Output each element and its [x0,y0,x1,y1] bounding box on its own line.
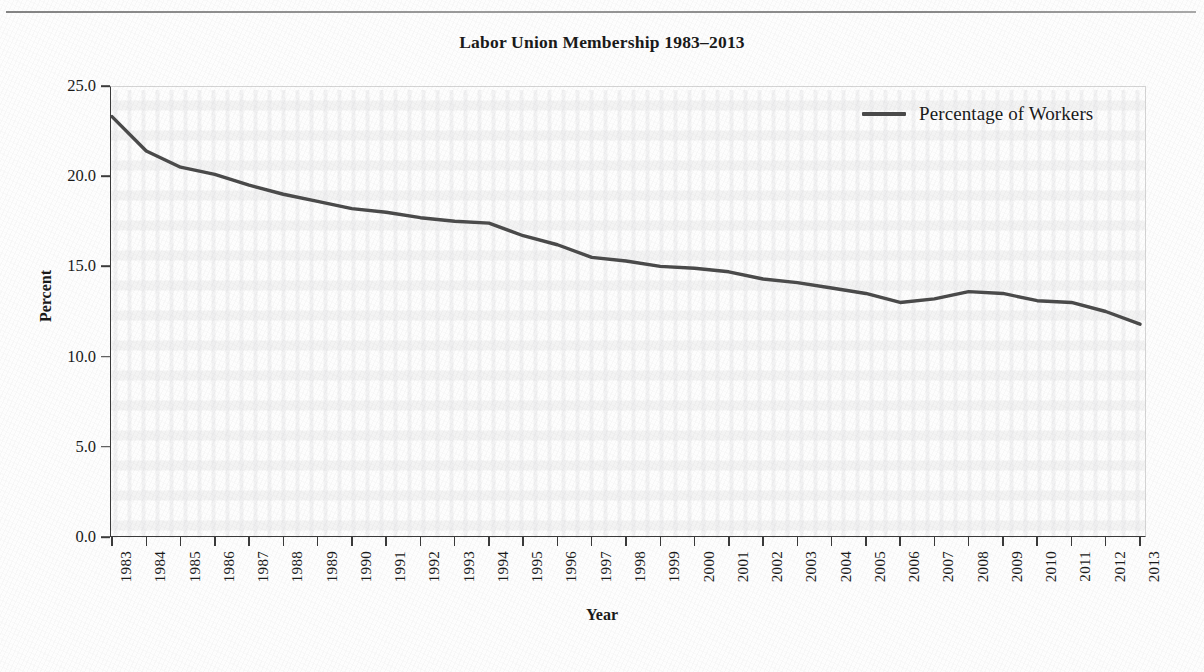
x-tick-label: 1985 [187,551,204,582]
x-tick-mark [180,537,182,546]
x-tick-mark [1071,537,1073,546]
x-tick-mark [1105,537,1107,546]
x-tick-mark [934,537,936,546]
x-tick-label: 2008 [975,551,992,582]
x-tick-label: 2003 [803,551,820,582]
x-tick-label: 1986 [221,551,238,582]
y-tick-mark [101,446,110,448]
x-tick-label: 2012 [1112,551,1129,582]
y-tick-label: 5.0 [6,437,96,457]
x-tick-mark [454,537,456,546]
x-tick-label: 2000 [701,551,718,582]
x-tick-mark [248,537,250,546]
legend-line-swatch [862,112,906,116]
x-tick-mark [522,537,524,546]
y-tick-label: 0.0 [6,527,96,547]
x-tick-mark [214,537,216,546]
x-tick-label: 1991 [392,551,409,582]
x-tick-mark [660,537,662,546]
x-tick-label: 1988 [289,551,306,582]
x-tick-mark [762,537,764,546]
x-tick-mark [694,537,696,546]
x-tick-mark [146,537,148,546]
x-tick-mark [899,537,901,546]
x-tick-label: 1998 [632,551,649,582]
x-tick-label: 2002 [769,551,786,582]
x-tick-mark [317,537,319,546]
x-tick-mark [385,537,387,546]
x-tick-label: 1999 [666,551,683,582]
x-tick-label: 2009 [1009,551,1026,582]
x-tick-mark [797,537,799,546]
y-tick-mark [101,536,110,538]
x-tick-label: 2011 [1077,551,1094,582]
x-tick-label: 2010 [1043,551,1060,582]
legend-label-percentage-of-workers: Percentage of Workers [919,103,1093,125]
x-tick-label: 1992 [426,551,443,582]
x-tick-label: 1987 [255,551,272,582]
x-tick-mark [591,537,593,546]
y-tick-label: 15.0 [6,256,96,276]
x-tick-label: 2005 [872,551,889,582]
x-tick-mark [283,537,285,546]
x-tick-mark [488,537,490,546]
chart-legend: Percentage of Workers [862,103,1093,125]
x-tick-label: 1993 [461,551,478,582]
x-tick-mark [1139,537,1141,546]
x-tick-label: 2004 [838,551,855,582]
x-tick-mark [831,537,833,546]
y-tick-label: 20.0 [6,166,96,186]
x-tick-mark [557,537,559,546]
x-tick-label: 2007 [940,551,957,582]
x-tick-mark [625,537,627,546]
x-tick-mark [1002,537,1004,546]
chart-title: Labor Union Membership 1983–2013 [0,32,1204,53]
x-tick-label: 1994 [495,551,512,582]
y-tick-label: 25.0 [6,76,96,96]
x-tick-label: 1995 [529,551,546,582]
x-tick-label: 1984 [152,551,169,582]
y-tick-mark [101,356,110,358]
x-axis-title: Year [0,606,1204,624]
x-tick-label: 2006 [906,551,923,582]
x-tick-mark [351,537,353,546]
y-tick-label: 10.0 [6,347,96,367]
x-tick-label: 2013 [1146,551,1163,582]
chart-figure: Labor Union Membership 1983–2013 Percent… [0,0,1204,672]
x-tick-label: 2001 [735,551,752,582]
x-tick-mark [968,537,970,546]
y-tick-mark [101,85,110,87]
x-tick-mark [1036,537,1038,546]
y-tick-mark [101,266,110,268]
x-tick-mark [728,537,730,546]
y-tick-mark [101,175,110,177]
x-tick-label: 1997 [598,551,615,582]
x-tick-mark [111,537,113,546]
x-tick-label: 1990 [358,551,375,582]
plot-area-frame [110,86,1146,537]
y-axis-title: Percent [37,236,55,356]
x-tick-label: 1983 [118,551,135,582]
x-tick-label: 1989 [324,551,341,582]
x-tick-mark [420,537,422,546]
x-tick-mark [865,537,867,546]
x-tick-label: 1996 [563,551,580,582]
